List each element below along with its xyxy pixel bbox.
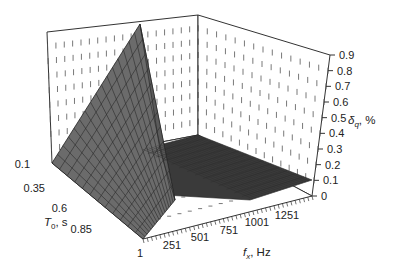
x-tick-label: 1001 [245, 216, 269, 228]
z-tick-label: 0.7 [335, 80, 350, 92]
y-tick-label: 1 [137, 247, 143, 259]
y-tick-label: 0.1 [15, 158, 30, 170]
y-tick-label: 0.35 [24, 182, 45, 194]
z-tick-label: 0.4 [329, 127, 344, 139]
x-tick-label: 501 [191, 231, 209, 243]
y-tick-label: 0.6 [52, 202, 67, 214]
x-tick-label: 1251 [275, 209, 299, 221]
z-tick-label: 0.1 [323, 174, 338, 186]
z-tick-label: 0.9 [339, 49, 354, 61]
z-tick-label: 0.3 [327, 143, 342, 155]
x-tick-label: 251 [163, 239, 181, 251]
surface-chart: 00.10.20.30.40.50.60.70.80.9 0.10.350.60… [0, 0, 393, 275]
y-axis-label: T0, s [44, 216, 68, 231]
x-axis-label: fx, Hz [243, 246, 271, 261]
y-tick-label: 0.85 [71, 223, 92, 235]
x-tick-label: 751 [220, 224, 238, 236]
z-axis-label: δq, % [348, 114, 375, 129]
z-tick-label: 0.6 [333, 96, 348, 108]
z-tick-label: 0 [321, 190, 327, 202]
z-tick-label: 0.8 [337, 65, 352, 77]
z-tick-label: 0.2 [325, 159, 340, 171]
z-tick-label: 0.5 [331, 112, 346, 124]
